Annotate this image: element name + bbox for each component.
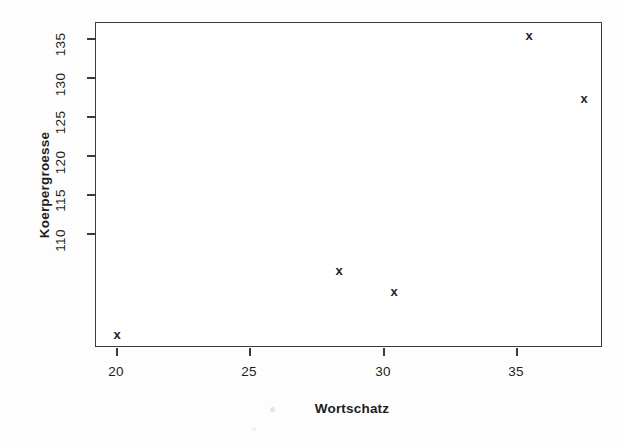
y-axis-tick-135 [87,38,95,40]
scan-speck [252,428,256,431]
x-axis-title: Wortschatz [262,401,442,416]
y-axis-tick-130 [87,77,95,79]
scatter-plot-figure: Koerpergroesse Wortschatz 135 130 125 12… [0,0,625,442]
y-axis-tick-110 [87,233,95,235]
x-tick-label-20: 20 [86,364,146,379]
data-point: x [387,284,401,300]
data-point: x [332,263,346,279]
y-tick-label-wrap: 125 [40,115,80,135]
plot-area: x x x x x [95,22,602,347]
y-tick-label-120: 120 [53,143,68,183]
data-point: x [522,28,536,44]
data-point: x [577,91,591,107]
y-tick-label-wrap: 135 [40,37,80,57]
x-axis-tick-20 [116,348,118,356]
y-tick-label-wrap: 130 [40,77,80,97]
x-tick-label-30: 30 [353,364,413,379]
y-tick-label-115: 115 [53,181,68,221]
y-tick-label-125: 125 [53,103,68,143]
x-tick-label-35: 35 [486,364,546,379]
y-tick-label-110: 110 [53,221,68,261]
data-point: x [110,327,124,343]
x-axis-tick-25 [249,348,251,356]
y-tick-label-wrap: 110 [40,233,80,253]
x-axis-tick-30 [383,348,385,356]
y-tick-label-130: 130 [53,65,68,105]
x-axis-tick-35 [516,348,518,356]
y-tick-label-wrap: 120 [40,155,80,175]
x-tick-label-25: 25 [219,364,279,379]
y-tick-label-wrap: 115 [40,193,80,213]
y-tick-label-135: 135 [53,25,68,65]
y-axis-tick-125 [87,116,95,118]
y-axis-tick-120 [87,155,95,157]
y-axis-tick-115 [87,194,95,196]
